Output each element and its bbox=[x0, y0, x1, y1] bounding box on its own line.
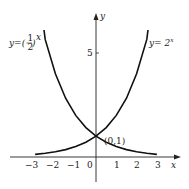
curve-label-exp: x bbox=[36, 32, 41, 42]
x-tick-label-1: 1 bbox=[114, 160, 120, 170]
y-tick-label-5: 5 bbox=[87, 48, 93, 58]
y-axis-label: y bbox=[99, 11, 106, 21]
x-axis-label: x bbox=[171, 160, 176, 170]
x-tick-label--1: −1 bbox=[67, 160, 80, 170]
curve-half-pow-x bbox=[44, 30, 157, 154]
intersection-label: (0,1) bbox=[104, 136, 125, 146]
x-axis-arrow-icon bbox=[174, 155, 181, 160]
curve-label-2-pow-x: y= 2x bbox=[148, 36, 174, 48]
exponential-chart: x y 5 −3 −2 −1 0 1 2 3 (0,1) y= 2x y=( 1… bbox=[0, 0, 189, 189]
x-tick-label--3: −3 bbox=[25, 160, 39, 170]
chart-svg: x y 5 −3 −2 −1 0 1 2 3 (0,1) y= 2x y=( 1… bbox=[0, 0, 189, 189]
y-axis-arrow-icon bbox=[94, 13, 99, 20]
x-tick-label-0: 0 bbox=[87, 160, 93, 170]
x-tick-label-2: 2 bbox=[134, 160, 140, 170]
curve-label-half-pow-x-prefix: y=( bbox=[8, 38, 26, 48]
x-tick-label--2: −2 bbox=[46, 160, 59, 170]
x-tick-label-3: 3 bbox=[155, 160, 161, 170]
